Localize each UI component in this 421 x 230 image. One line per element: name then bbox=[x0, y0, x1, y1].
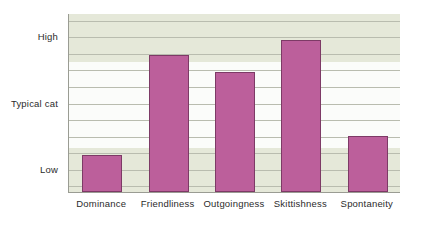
y-axis-tick-label-low: Low bbox=[0, 164, 63, 175]
x-axis-tick-label-friendliness: Friendliness bbox=[134, 198, 200, 209]
bar bbox=[82, 155, 122, 192]
y-axis-labels: High Typical cat Low bbox=[0, 0, 63, 230]
x-axis-tick-label-dominance: Dominance bbox=[68, 198, 134, 209]
bar bbox=[215, 72, 255, 192]
bars-layer bbox=[69, 14, 400, 192]
y-axis-tick-label-typical-cat: Typical cat bbox=[0, 98, 63, 109]
plot-area bbox=[68, 14, 400, 193]
bar bbox=[149, 55, 189, 192]
bar bbox=[281, 40, 321, 192]
x-axis-tick-label-spontaneity: Spontaneity bbox=[334, 198, 400, 209]
x-axis-tick-label-skittishness: Skittishness bbox=[267, 198, 333, 209]
x-axis-labels: Dominance Friendliness Outgoingness Skit… bbox=[68, 198, 400, 220]
x-axis-tick-label-outgoingness: Outgoingness bbox=[201, 198, 267, 209]
bar bbox=[348, 136, 388, 192]
bar-chart: High Typical cat Low Dominance Friendlin… bbox=[0, 0, 421, 230]
y-axis-tick-label-high: High bbox=[0, 31, 63, 42]
